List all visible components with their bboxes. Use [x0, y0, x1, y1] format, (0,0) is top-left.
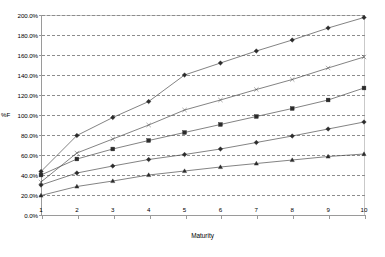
x-tick-mark — [186, 215, 187, 219]
gridline — [42, 135, 365, 136]
gridline — [42, 75, 365, 76]
x-tick-label: 1 — [39, 206, 42, 213]
y-tick-label: 160.0% — [18, 52, 38, 59]
gridline — [42, 195, 365, 196]
x-tick-mark — [329, 215, 330, 219]
x-tick-label: 8 — [290, 206, 293, 213]
y-tick-label: 40.0% — [21, 172, 38, 179]
y-tick-mark — [39, 15, 42, 16]
y-tick-label: 120.0% — [18, 92, 38, 99]
y-tick-label: 60.0% — [21, 152, 38, 159]
y-tick-mark — [39, 175, 42, 176]
y-tick-mark — [39, 195, 42, 196]
y-tick-mark — [39, 95, 42, 96]
x-tick-mark — [365, 215, 366, 219]
x-tick-mark — [257, 215, 258, 219]
gridline — [42, 35, 365, 36]
y-tick-mark — [39, 135, 42, 136]
y-tick-label: 200.0% — [18, 12, 38, 19]
gridline — [42, 155, 365, 156]
gridline — [42, 175, 365, 176]
x-tick-mark — [78, 215, 79, 219]
y-tick-label: 100.0% — [18, 112, 38, 119]
x-tick-label: 10 — [361, 206, 368, 213]
x-tick-mark — [114, 215, 115, 219]
y-tick-mark — [39, 75, 42, 76]
y-tick-mark — [39, 35, 42, 36]
x-tick-mark — [293, 215, 294, 219]
gridline — [42, 95, 365, 96]
gridline — [42, 115, 365, 116]
x-tick-label: 9 — [326, 206, 329, 213]
y-tick-label: 20.0% — [21, 192, 38, 199]
gridline — [42, 55, 365, 56]
x-tick-mark — [221, 215, 222, 219]
y-tick-label: 0.0% — [24, 212, 38, 219]
y-tick-mark — [39, 155, 42, 156]
x-tick-label: 3 — [111, 206, 114, 213]
x-tick-mark — [150, 215, 151, 219]
x-tick-label: 5 — [183, 206, 186, 213]
y-tick-label: 140.0% — [18, 72, 38, 79]
y-tick-mark — [39, 55, 42, 56]
plot-area — [41, 15, 365, 216]
x-tick-mark — [42, 215, 43, 219]
x-axis-title: Maturity — [41, 232, 364, 239]
x-tick-label: 2 — [75, 206, 78, 213]
y-tick-mark — [39, 115, 42, 116]
x-tick-label: 4 — [147, 206, 150, 213]
y-tick-label: 180.0% — [18, 32, 38, 39]
y-tick-label: 80.0% — [21, 132, 38, 139]
y-axis-title: %F — [1, 111, 10, 118]
gridline — [42, 15, 365, 16]
x-tick-label: 7 — [255, 206, 258, 213]
x-tick-label: 6 — [219, 206, 222, 213]
chart-container: 0.0%20.0%40.0%60.0%80.0%100.0%120.0%140.… — [0, 0, 385, 257]
